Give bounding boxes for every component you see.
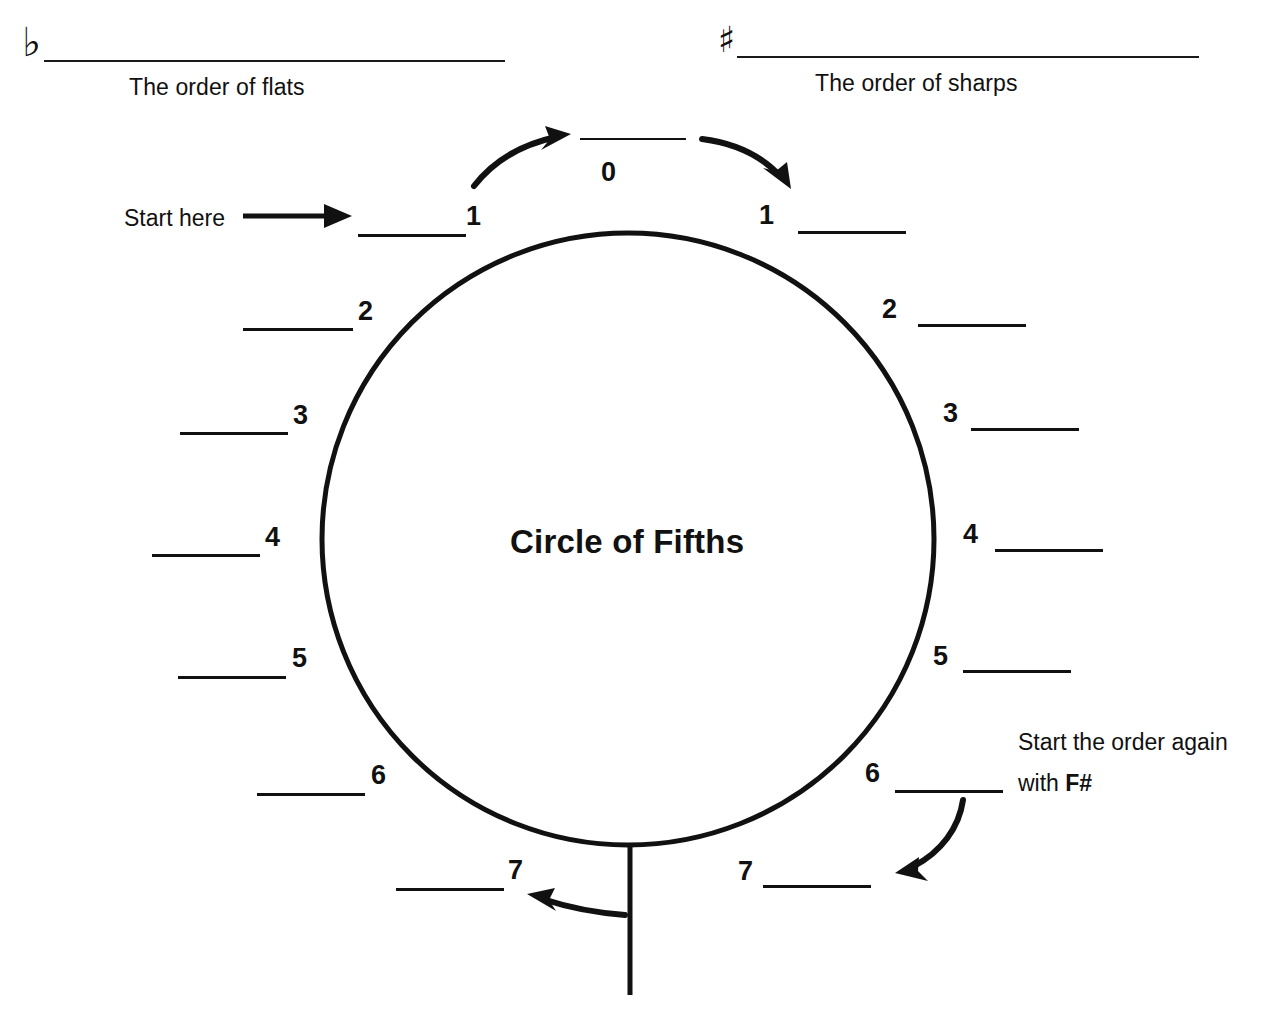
restart-order-prefix: with [1018, 770, 1065, 796]
page-title: Circle of Fifths [510, 523, 744, 561]
flat-slot-7-answer-line[interactable] [396, 888, 504, 891]
flat-slot-4-answer-line[interactable] [152, 554, 260, 557]
sharp-slot-6-answer-line[interactable] [895, 790, 1003, 793]
sharp-slot-4-answer-line[interactable] [995, 549, 1103, 552]
flat-slot-6-answer-line[interactable] [257, 793, 365, 796]
flat-slot-5-number: 5 [292, 645, 307, 672]
sharp-slot-5-answer-line[interactable] [963, 670, 1071, 673]
restart-order-line1: Start the order again [1018, 727, 1228, 758]
slot-0-number: 0 [601, 159, 616, 186]
flat-slot-7-number: 7 [508, 857, 523, 884]
restart-order-line2: with F# [1018, 768, 1092, 799]
sharp-slot-2-answer-line[interactable] [918, 324, 1026, 327]
flat-slot-3-answer-line[interactable] [180, 432, 288, 435]
sharp-slot-3-number: 3 [943, 400, 958, 427]
flats-direction-arrow-icon [474, 126, 571, 186]
flat-slot-2-answer-line[interactable] [243, 328, 353, 331]
restart-order-note-fsharp: F# [1065, 770, 1092, 796]
start-here-arrow-icon [243, 204, 352, 228]
flat-slot-6-number: 6 [371, 762, 386, 789]
sharp-slot-7-number: 7 [738, 858, 753, 885]
sharp-slot-7-answer-line[interactable] [763, 885, 871, 888]
sharp-slot-1-number: 1 [759, 202, 774, 229]
sharp-slot-2-number: 2 [882, 296, 897, 323]
sharp-slot-1-answer-line[interactable] [798, 231, 906, 234]
flat-slot-4-number: 4 [265, 524, 280, 551]
flat-slot-1-number: 1 [466, 203, 481, 230]
flat-slot-3-number: 3 [293, 402, 308, 429]
flat-slot-5-answer-line[interactable] [178, 676, 286, 679]
slot-0-answer-line[interactable] [580, 138, 686, 140]
sharp-slot-6-number: 6 [865, 760, 880, 787]
sharps-wrap-arrow-icon [895, 800, 963, 881]
sharp-slot-5-number: 5 [933, 643, 948, 670]
flat-slot-2-number: 2 [358, 298, 373, 325]
circle-of-fifths-diagram [0, 0, 1270, 1024]
worksheet-page: ♭ The order of flats ♯ The order of shar… [0, 0, 1270, 1024]
sharp-slot-4-number: 4 [963, 521, 978, 548]
sharps-direction-arrow-icon [702, 139, 791, 189]
start-here-label: Start here [124, 203, 225, 234]
sharp-slot-3-answer-line[interactable] [971, 428, 1079, 431]
flat-slot-1-answer-line[interactable] [358, 234, 466, 237]
flats-wrap-arrow-icon [527, 888, 625, 915]
